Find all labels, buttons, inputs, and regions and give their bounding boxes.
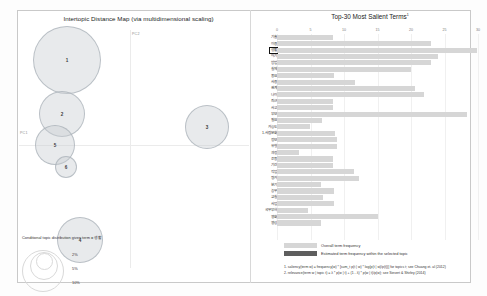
bar-overall-frequency[interactable] [277,86,415,91]
bar-overall-frequency[interactable] [277,131,335,136]
bar-overall-frequency[interactable] [277,144,337,149]
bar-overall-frequency[interactable] [277,124,310,129]
bar-container [277,182,478,187]
term-label-4[interactable]: 방법 [247,60,277,66]
term-label-0[interactable]: 기술 [247,34,277,40]
term-label-20[interactable]: 기간 [247,162,277,168]
bar-overall-frequency[interactable] [277,182,321,187]
x-tick-25: 25 [443,28,447,32]
bar-overall-frequency[interactable] [277,112,467,117]
term-label-9[interactable]: 나이 [247,92,277,98]
map-vertical-axis [130,30,131,268]
x-tick-30: 30 [476,28,480,32]
x-tick-0: 0 [276,28,278,32]
term-label-12[interactable]: 부모 [247,111,277,117]
size-legend-pct-10: 10% [72,280,80,285]
term-label-18[interactable]: 과정 [247,150,277,156]
bar-overall-frequency[interactable] [277,163,333,168]
bar-overall-frequency[interactable] [277,188,334,193]
term-label-22[interactable]: 평가 [247,175,277,181]
term-label-14[interactable]: 가능도 [247,124,277,130]
term-label-13[interactable]: 필요 [247,117,277,123]
topic-circle-6[interactable]: 6 [55,156,77,178]
bar-overall-frequency[interactable] [277,92,424,97]
term-label-17[interactable]: 유형 [247,143,277,149]
bar-overall-frequency[interactable] [277,99,333,104]
bar-overall-frequency[interactable] [277,150,299,155]
legend-row-overall: Overall term frequency [284,243,408,248]
term-label-15[interactable]: 1.사람문화 [247,130,277,136]
term-label-5[interactable]: 실제 [247,66,277,72]
term-label-29[interactable]: 영상 [247,220,277,226]
bar-overall-frequency[interactable] [277,137,337,142]
topic-circle-label: 3 [186,125,228,130]
bar-container [277,169,478,174]
term-label-6[interactable]: 중요 [247,73,277,79]
term-label-7[interactable]: 사용 [247,79,277,85]
salient-terms-title-text: Top-30 Most Salient Terms [331,13,407,20]
bar-overall-frequency[interactable] [277,48,477,53]
bar-overall-frequency[interactable] [277,54,438,59]
bar-container [277,201,478,206]
size-legend-pct-2: 2% [72,252,78,257]
salient-terms-title: Top-30 Most Salient Terms1 [258,13,482,20]
term-label-8[interactable]: 관계 [247,85,277,91]
bar-container [277,105,478,110]
term-row[interactable]: 영상 [258,220,482,226]
bar-overall-frequency[interactable] [277,60,431,65]
term-label-19[interactable]: 운동 [247,156,277,162]
bar-overall-frequency[interactable] [277,80,355,85]
footnotes: 1. saliency(term w) = frequency(w) * [su… [284,265,446,276]
topic-circle-label: 2 [40,112,84,117]
axis-label-pc2: PC2 [132,32,140,36]
bar-container [277,208,478,213]
x-tick-5: 5 [310,28,312,32]
bar-overall-frequency[interactable] [277,73,334,78]
topic-circle-4[interactable]: 4 [57,217,103,263]
bar-overall-frequency[interactable] [277,208,308,213]
bar-overall-frequency[interactable] [277,118,322,123]
bar-container [277,188,478,193]
term-label-21[interactable]: 작업 [247,169,277,175]
term-label-10[interactable]: 최근 [247,98,277,104]
x-tick-15: 15 [376,28,380,32]
intertopic-map-title: Intertopic Distance Map (via multidimens… [46,15,231,22]
term-label-3[interactable]: 아기 [247,53,277,59]
bar-overall-frequency[interactable] [277,41,431,46]
term-label-24[interactable]: 농무 [247,188,277,194]
term-label-28[interactable]: 영화 [247,214,277,220]
term-label-23[interactable]: 분기 [247,182,277,188]
bar-overall-frequency[interactable] [277,195,323,200]
topic-circle-label: 6 [56,165,76,170]
bar-container [277,214,478,219]
bar-overall-frequency[interactable] [277,220,321,225]
term-label-1[interactable]: 이용 [247,41,277,47]
bar-overall-frequency[interactable] [277,176,359,181]
term-label-25[interactable]: 교실 [247,194,277,200]
bar-container [277,176,478,181]
bar-container [277,99,478,104]
topic-circle-3[interactable]: 3 [185,105,229,149]
term-label-26[interactable]: 사업 [247,201,277,207]
bar-overall-frequency[interactable] [277,214,378,219]
legend-label-selected: Estimated term frequency within the sele… [321,251,408,256]
bar-overall-frequency[interactable] [277,169,354,174]
bar-container [277,48,478,53]
legend-label-overall: Overall term frequency [321,243,360,248]
size-legend-pct-5: 5% [72,266,78,271]
topic-circle-1[interactable]: 1 [33,26,101,94]
bar-overall-frequency[interactable] [277,67,411,72]
term-label-16[interactable]: 정보 [247,137,277,143]
size-legend-circle-2 [36,253,53,270]
bar-overall-frequency[interactable] [277,105,333,110]
bar-container [277,112,478,117]
legend-swatch-overall [284,243,317,248]
bar-container [277,60,478,65]
footnote-1: 1. saliency(term w) = frequency(w) * [su… [284,265,446,271]
term-label-27[interactable]: 국무부하 [247,207,277,213]
bar-overall-frequency[interactable] [277,156,333,161]
bar-overall-frequency[interactable] [277,35,333,40]
bar-overall-frequency[interactable] [277,201,334,206]
term-label-11[interactable]: 사고 [247,105,277,111]
bar-container [277,86,478,91]
